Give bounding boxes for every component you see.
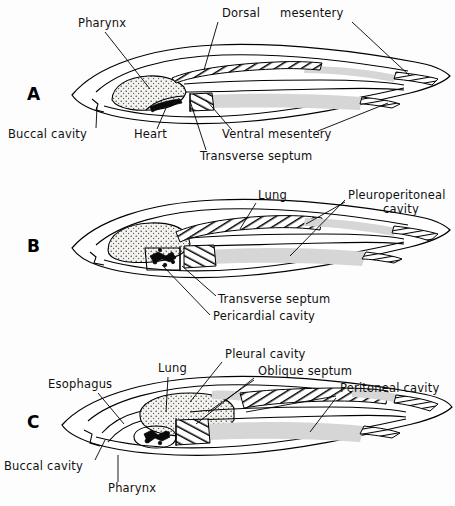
- label-buccal-cavity-a: Buccal cavity: [8, 127, 87, 141]
- label-oblique-septum-c: Oblique septum: [258, 364, 352, 378]
- label-transverse-septum-a: Transverse septum: [199, 149, 313, 163]
- label-dorsal-a: Dorsal: [222, 6, 260, 20]
- label-heart-a: Heart: [134, 127, 167, 141]
- label-pericardial-cavity-b: Pericardial cavity: [213, 309, 315, 323]
- label-lung-c: Lung: [158, 361, 187, 375]
- anatomical-figure: A: [0, 0, 455, 506]
- label-pharynx-a: Pharynx: [78, 16, 126, 30]
- panel-b: B: [27, 188, 450, 323]
- mesentery-block-b: [184, 245, 216, 268]
- label-pleural-cavity-c: Pleural cavity: [225, 347, 306, 361]
- label-pharynx-c: Pharynx: [108, 481, 156, 495]
- panel-a: A: [8, 6, 450, 163]
- oblique-septum-ventral-c: [176, 419, 210, 445]
- label-peritoneal-cavity-c: Peritoneal cavity: [340, 381, 439, 395]
- panel-letter-a: A: [27, 84, 41, 104]
- label-buccal-cavity-c: Buccal cavity: [4, 459, 83, 473]
- label-ventral-mesentery-a: Ventral mesentery: [222, 127, 332, 141]
- figure-canvas: A: [0, 0, 455, 506]
- panel-letter-b: B: [27, 236, 40, 256]
- label-mesentery-a: mesentery: [280, 6, 344, 20]
- ventral-mesentery-a: [190, 93, 214, 111]
- panel-c: C: [4, 347, 452, 495]
- panel-letter-c: C: [27, 412, 39, 432]
- ventral-cavity-a: [208, 94, 362, 110]
- label-lung-b: Lung: [258, 188, 287, 202]
- label-pleuroperitoneal-b: Pleuroperitoneal: [348, 188, 446, 202]
- label-transverse-septum-b: Transverse septum: [217, 292, 331, 306]
- label-esophagus-c: Esophagus: [48, 377, 112, 391]
- label-pleuroperitoneal-cavity-b: cavity: [383, 202, 419, 216]
